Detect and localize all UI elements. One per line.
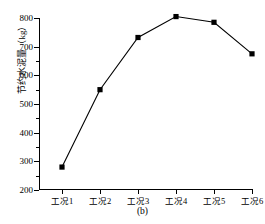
figure-panel-b: 节约水泥量（kg） 800 700 600 500 400 300 200 — [0, 0, 265, 224]
x-tick-label-1: 工况1 — [51, 196, 73, 206]
data-series — [39, 18, 253, 190]
data-point — [97, 87, 102, 92]
x-tick-label-6: 工况6 — [241, 196, 263, 206]
x-tick-3 — [138, 190, 139, 194]
series-markers — [59, 14, 254, 170]
x-tick-label-2: 工况2 — [89, 196, 111, 206]
y-tick-label-200: 200 — [20, 186, 34, 195]
x-tick-6 — [252, 190, 253, 194]
plot-area: 800 700 600 500 400 300 200 工况1 工况2 工况3 … — [39, 18, 253, 190]
data-point — [173, 14, 178, 19]
y-tick-label-700: 700 — [20, 42, 34, 51]
y-tick-label-300: 300 — [20, 157, 34, 166]
data-point — [211, 20, 216, 25]
y-tick-label-400: 400 — [20, 128, 34, 137]
x-tick-1 — [62, 190, 63, 194]
x-tick-2 — [100, 190, 101, 194]
series-line — [62, 17, 252, 168]
data-point — [135, 35, 140, 40]
data-point — [249, 51, 254, 56]
x-tick-4 — [176, 190, 177, 194]
figure-caption-text: (b) — [117, 206, 148, 216]
y-tick-label-800: 800 — [20, 14, 34, 23]
x-tick-label-3: 工况3 — [127, 196, 149, 206]
y-tick-label-600: 600 — [20, 71, 34, 80]
y-tick-label-500: 500 — [20, 100, 34, 109]
y-tick-200 — [34, 190, 39, 191]
x-tick-label-5: 工况5 — [203, 196, 225, 206]
data-point — [59, 164, 64, 169]
x-tick-5 — [214, 190, 215, 194]
figure-caption: (b) — [0, 206, 265, 216]
x-tick-label-4: 工况4 — [165, 196, 187, 206]
